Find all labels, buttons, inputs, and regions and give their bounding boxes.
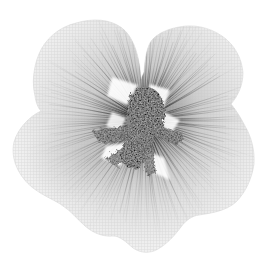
- flower-illustration: Black-and-white X-ray photograph of a fi…: [0, 0, 271, 264]
- flower-xray-image: Black-and-white X-ray photograph of a fi…: [0, 0, 271, 264]
